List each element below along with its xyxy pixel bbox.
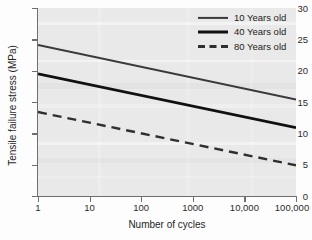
y-tick-15 [32,102,37,103]
legend-label-10-years: 10 Years old [234,13,286,23]
x-tick-label-1: 1 [35,203,40,213]
legend-item-10-years: 10 Years old [198,12,286,23]
y-tick-label-0: 0 [282,192,308,202]
x-axis-line [37,196,297,197]
x-tick-label-100000: 100,000 [275,203,309,213]
y-tick-30 [32,8,37,9]
y-tick-25 [32,39,37,40]
y-tick-label-25: 25 [282,35,308,45]
legend-label-80-years: 80 Years old [234,42,286,52]
legend-item-40-years: 40 Years old [198,27,286,38]
y-tick-label-10: 10 [282,129,308,139]
legend-item-80-years: 80 Years old [198,41,286,52]
y-tick-label-30: 30 [282,4,308,14]
chart-legend: 10 Years old 40 Years old 80 Years old [198,12,286,52]
legend-swatch-40-years [198,27,228,38]
x-tick-label-100: 100 [133,203,149,213]
x-axis-title: Number of cycles [38,219,296,230]
legend-swatch-10-years [198,12,228,23]
y-tick-label-5: 5 [282,160,308,170]
plot-area: 10 Years old 40 Years old 80 Years old [38,8,296,196]
legend-swatch-80-years [198,41,228,52]
x-tick-label-10: 10 [84,203,95,213]
y-tick-10 [32,133,37,134]
legend-label-40-years: 40 Years old [234,27,286,37]
y-tick-20 [32,71,37,72]
y-tick-0 [32,196,37,197]
y-axis-line [37,8,38,197]
series-line-10-years [38,45,296,100]
chart-figure: 10 Years old 40 Years old 80 Years old [0,0,312,240]
series-line-40-years [38,74,296,128]
x-tick-label-10000: 10,000 [230,203,259,213]
y-axis-title: Tensile failure stress (MPa) [7,31,18,181]
y-tick-label-20: 20 [282,66,308,76]
x-tick-label-1000: 1000 [182,203,203,213]
y-tick-5 [32,165,37,166]
y-tick-label-15: 15 [282,98,308,108]
